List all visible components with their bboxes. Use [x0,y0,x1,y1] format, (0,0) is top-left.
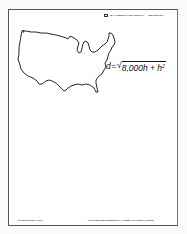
transparency-number: TRANSPARENCY 13-12 [18,219,43,221]
square-root: √ 8,000h + h2 [117,61,166,73]
book-credit: To be used with ELEMENTARY ALGEBRA by Ha… [88,219,154,221]
distance-formula: d = √ 8,000h + h2 [106,61,166,73]
publisher-city: San Francisco [148,14,163,16]
publisher-name: W. H. FREEMAN AND COMPANY [110,14,144,16]
publisher-logo-icon [104,14,108,17]
formula-lhs: d [106,61,111,71]
formula-equals: = [111,61,116,71]
formula-radicand: 8,000h + h2 [122,61,166,73]
us-map-outline [16,28,116,94]
publisher-header: W. H. FREEMAN AND COMPANY San Francisco [104,12,176,18]
formula-exponent: 2 [162,63,165,69]
